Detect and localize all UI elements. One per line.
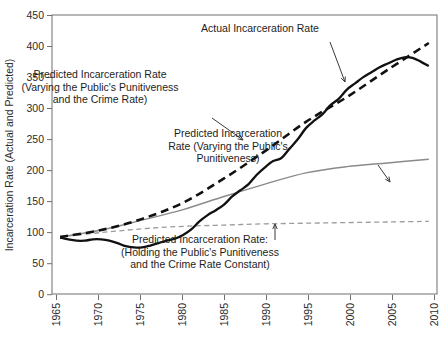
x-tick-label: 2005 (386, 303, 398, 327)
y-tick-label: 250 (26, 133, 44, 145)
y-axis-tick-labels: 0 50 100 150 200 250 300 350 400 450 (26, 9, 44, 300)
x-axis-tick-labels: 1965 1970 1975 1980 1985 1990 1995 2000 … (50, 303, 440, 327)
annotation-line: (Varying the Public's Punitiveness (21, 81, 178, 93)
y-axis-ticks (47, 16, 52, 295)
x-tick-label: 1985 (218, 303, 230, 327)
annotation-line: Predicted Incarceration Rate (33, 68, 166, 80)
y-tick-label: 300 (26, 102, 44, 114)
y-axis-title: Incarceration Rate (Actual and Predicted… (3, 59, 15, 252)
annotation-line: and the Crime Rate) (53, 93, 148, 105)
annotation-line: Punitiveness) (196, 152, 259, 164)
x-tick-label: 1990 (260, 303, 272, 327)
y-tick-label: 0 (38, 288, 44, 300)
x-axis-ticks (57, 295, 435, 300)
x-tick-label: 2010 (428, 303, 440, 327)
x-tick-label: 1965 (50, 303, 62, 327)
chart-figure: 0 50 100 150 200 250 300 350 400 450 1 (0, 0, 448, 338)
y-tick-label: 450 (26, 9, 44, 21)
annotation-line: (Holding the Public's Punitiveness (121, 246, 279, 258)
x-tick-label: 1970 (92, 303, 104, 327)
y-tick-label: 100 (26, 226, 44, 238)
annotation-line: Rate (Varying the Public's (168, 140, 288, 152)
y-tick-label: 50 (32, 257, 44, 269)
incarceration-rate-line-chart: 0 50 100 150 200 250 300 350 400 450 1 (0, 0, 448, 338)
y-tick-label: 150 (26, 195, 44, 207)
x-tick-label: 2000 (344, 303, 356, 327)
x-tick-label: 1995 (302, 303, 314, 327)
annotation-line: Actual Incarceration Rate (201, 22, 319, 34)
x-tick-label: 1975 (134, 303, 146, 327)
annotation-line: Predicted Incarceration Rate: (132, 233, 268, 245)
y-tick-label: 200 (26, 164, 44, 176)
y-tick-label: 400 (26, 40, 44, 52)
annotation-line: and the Crime Rate Constant) (130, 258, 269, 270)
x-tick-label: 1980 (176, 303, 188, 327)
annotation-line: Predicted Incarceration (174, 127, 282, 139)
